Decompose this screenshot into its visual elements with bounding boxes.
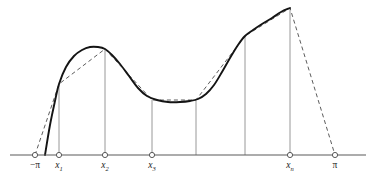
figure-canvas: −πx1x2x3xnπ bbox=[0, 0, 377, 177]
tick-labels-group: −πx1x2x3xnπ bbox=[30, 160, 338, 172]
smooth-curve-group bbox=[45, 8, 290, 155]
node-marker-7 bbox=[287, 152, 292, 157]
node-marker-8 bbox=[332, 152, 337, 157]
node-marker-4 bbox=[149, 152, 154, 157]
tick-label-8: π bbox=[333, 160, 338, 170]
smooth-function-curve bbox=[45, 8, 290, 155]
node-marker-2 bbox=[56, 152, 61, 157]
tick-label-7: xn bbox=[285, 160, 293, 172]
figure-container: −πx1x2x3xnπ bbox=[0, 0, 377, 177]
tick-label-2: x1 bbox=[54, 160, 62, 172]
node-marker-1 bbox=[32, 152, 37, 157]
tick-label-3: x2 bbox=[100, 160, 109, 172]
node-marker-3 bbox=[102, 152, 107, 157]
tick-label-4: x3 bbox=[147, 160, 156, 172]
tick-label-1: −π bbox=[30, 160, 40, 170]
